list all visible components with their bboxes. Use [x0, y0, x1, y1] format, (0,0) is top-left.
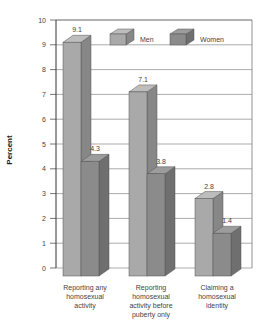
- x-axis-labels: Reporting anyhomosexualactivityReporting…: [63, 284, 236, 319]
- data-label: 3.8: [156, 158, 166, 165]
- legend-label: Women: [200, 36, 224, 43]
- y-tick-label: 8: [42, 66, 46, 73]
- x-category-label: Reportinghomosexualactivity beforepubert…: [129, 284, 172, 319]
- data-label: 7.1: [138, 76, 148, 83]
- bars: 9.14.37.13.82.81.4: [63, 26, 241, 276]
- bar-women: 3.8: [147, 158, 175, 276]
- y-tick-label: 0: [42, 265, 46, 272]
- data-label: 4.3: [90, 145, 100, 152]
- x-category-label: Claiming ahomosexualidentity: [198, 284, 236, 310]
- data-label: 2.8: [204, 183, 214, 190]
- legend-item-men: Men: [110, 29, 154, 45]
- legend-swatch: [110, 34, 126, 45]
- y-tick-label: 9: [42, 41, 46, 48]
- data-label: 9.1: [72, 26, 82, 33]
- y-axis: 012345678910: [38, 17, 56, 272]
- y-axis-label: Percent: [5, 135, 14, 165]
- y-tick-label: 2: [42, 215, 46, 222]
- y-tick-label: 10: [38, 17, 46, 24]
- legend-item-women: Women: [170, 29, 224, 45]
- bar-women: 4.3: [81, 145, 109, 276]
- bar-chart: 012345678910 Percent 9.14.37.13.82.81.4 …: [0, 0, 266, 331]
- y-tick-label: 4: [42, 165, 46, 172]
- y-tick-label: 5: [42, 141, 46, 148]
- legend-swatch: [170, 34, 186, 45]
- y-tick-label: 6: [42, 116, 46, 123]
- y-tick-label: 7: [42, 91, 46, 98]
- legend-label: Men: [140, 36, 154, 43]
- y-tick-label: 3: [42, 190, 46, 197]
- y-tick-label: 1: [42, 240, 46, 247]
- x-category-label: Reporting anyhomosexualactivity: [63, 284, 107, 310]
- legend: MenWomen: [110, 29, 224, 45]
- data-label: 1.4: [222, 217, 232, 224]
